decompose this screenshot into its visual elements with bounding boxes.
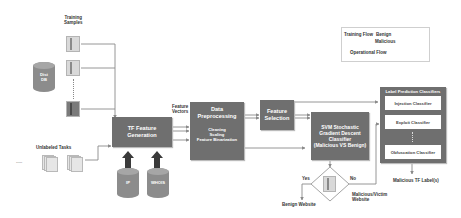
training-samples-label: Training Samples (64, 15, 83, 25)
legend-malicious: Malicious (375, 39, 396, 44)
svm-classifier-title: SVM Stochastic Gradient Descent Classifi… (314, 124, 367, 148)
data-preprocessing-box: Data Preprocessing Cleaning Scaling Feat… (190, 102, 244, 160)
feature-selection-title: Feature Selection (265, 108, 290, 121)
data-preprocessing-title: Data Preprocessing (198, 106, 237, 119)
feature-selection-box: Feature Selection (260, 100, 294, 130)
classifiers-title: Label Prediction Classifiers (386, 89, 441, 94)
feature-vectors-label: Feature Vectors (172, 104, 188, 114)
ellipsis-vertical-icon (412, 132, 414, 142)
training-sample-doc (66, 60, 80, 76)
injection-classifier: Injection Classifier (385, 96, 441, 110)
decision-doc-icon (323, 176, 336, 192)
ellipsis-vertical-icon (73, 79, 75, 99)
ellipsis-label: ..... (16, 159, 22, 164)
malicious-website-label: Malicious/Victim Website (352, 192, 387, 202)
legend-training-flow: Training Flow (344, 32, 373, 37)
ip-database-icon: IP (117, 168, 139, 198)
database-icon: Dist DB (33, 62, 55, 92)
obfuscation-classifier: Obfuscation Classifier (385, 145, 441, 159)
whois-database-label: WHOIS (151, 180, 165, 185)
training-sample-doc (66, 36, 80, 52)
benign-website-label: Benign Website (282, 202, 316, 207)
tf-feature-generation-title: TF Feature Generation (127, 125, 157, 138)
legend-operational-flow: Operational Flow (350, 50, 387, 55)
unlabeled-task-stack (67, 155, 83, 173)
database-label: Dist DB (40, 72, 48, 82)
data-preprocessing-steps: Cleaning Scaling Feature Binarization (197, 127, 237, 142)
training-sample-doc (66, 101, 80, 117)
decision-yes-label: Yes (302, 176, 310, 181)
whois-database-icon: WHOIS (147, 168, 169, 198)
decision-no-label: No (350, 176, 356, 181)
malicious-tf-labels-output: Malicious TF Label(s) (393, 178, 439, 183)
unlabeled-tasks-label: Unlabeled Tasks (36, 145, 71, 150)
svm-classifier-box: SVM Stochastic Gradient Descent Classifi… (311, 112, 369, 160)
ip-database-label: IP (126, 180, 130, 185)
legend-benign: Benign (376, 32, 391, 37)
exploit-classifier: Exploit Classifier (385, 115, 441, 129)
tf-feature-generation-box: TF Feature Generation (112, 117, 172, 147)
unlabeled-task-stack (42, 155, 58, 173)
